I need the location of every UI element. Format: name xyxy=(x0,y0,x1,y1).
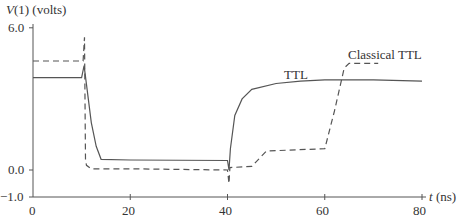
x-tick-80: 80 xyxy=(413,203,426,219)
y-tick-minus1: −1.0 xyxy=(0,189,24,205)
x-tick-40: 40 xyxy=(219,203,232,219)
series-ttl xyxy=(33,66,422,170)
y-tick-6: 6.0 xyxy=(8,20,24,36)
series-label-classical-ttl: Classical TTL xyxy=(348,47,422,63)
y-tick-0: 0.0 xyxy=(8,162,24,178)
x-tick-0: 0 xyxy=(29,203,36,219)
chart-canvas xyxy=(0,0,460,220)
x-axis-label: t (ns) xyxy=(429,189,456,205)
x-tick-20: 20 xyxy=(122,203,135,219)
series-classical-ttl xyxy=(33,37,378,183)
series-label-ttl: TTL xyxy=(284,67,308,83)
y-axis-label: V(1) (volts) xyxy=(6,2,66,18)
x-tick-60: 60 xyxy=(316,203,329,219)
